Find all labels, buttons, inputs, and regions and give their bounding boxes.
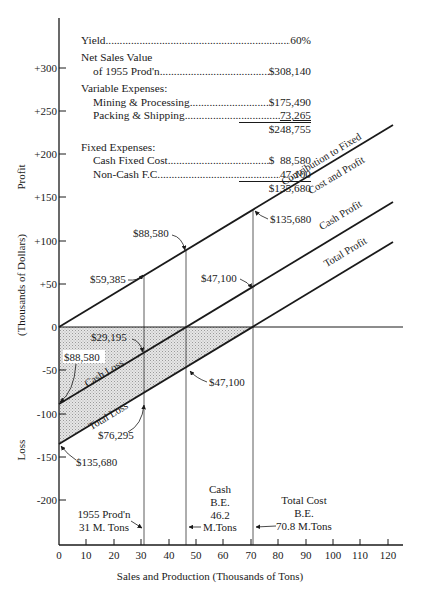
svg-text:$135,680: $135,680 bbox=[76, 456, 118, 468]
svg-text:50: 50 bbox=[191, 549, 203, 561]
svg-text:-100: -100 bbox=[37, 408, 58, 420]
fixed-expenses-heading: Fixed Expenses: bbox=[81, 141, 311, 154]
svg-text:20: 20 bbox=[109, 549, 121, 561]
svg-text:-200: -200 bbox=[37, 494, 58, 506]
yield-row: Yield 60% bbox=[81, 34, 311, 47]
svg-text:30: 30 bbox=[136, 549, 148, 561]
summary-table: Yield 60% Net Sales Value of 1955 Prod'n… bbox=[81, 34, 311, 195]
svg-text:0: 0 bbox=[52, 321, 58, 333]
svg-text:110: 110 bbox=[352, 549, 369, 561]
svg-text:$88,580: $88,580 bbox=[64, 351, 100, 363]
svg-text:+300: +300 bbox=[34, 62, 57, 74]
svg-text:1955 Prod'n: 1955 Prod'n bbox=[77, 508, 131, 520]
svg-text:-50: -50 bbox=[42, 364, 57, 376]
packing-row: Packing & Shipping 73,265 bbox=[81, 109, 311, 122]
variable-expenses-total: $248,755 bbox=[81, 123, 311, 136]
svg-text:31 M. Tons: 31 M. Tons bbox=[79, 521, 129, 533]
svg-text:$59,385: $59,385 bbox=[90, 273, 126, 285]
svg-text:-150: -150 bbox=[37, 451, 58, 463]
svg-text:$47,100: $47,100 bbox=[201, 272, 237, 284]
y-axis-title: (Thousands of Dollars) bbox=[15, 234, 28, 336]
y-axis-loss-label: Loss bbox=[15, 440, 27, 461]
svg-text:+250: +250 bbox=[34, 105, 57, 117]
fixed-expenses-total: $135,680 bbox=[81, 182, 311, 195]
svg-text:Cash Profit: Cash Profit bbox=[317, 198, 363, 232]
svg-text:10: 10 bbox=[81, 549, 93, 561]
svg-text:B.E.: B.E. bbox=[294, 507, 314, 519]
svg-text:46.2: 46.2 bbox=[210, 509, 229, 521]
svg-text:B.E.: B.E. bbox=[210, 496, 230, 508]
svg-text:0: 0 bbox=[56, 549, 62, 561]
svg-text:+200: +200 bbox=[34, 148, 57, 160]
cash-fixed-row: Cash Fixed Cost $ 88,580 bbox=[81, 154, 311, 167]
net-sales-row: of 1955 Prod'n $308,140 bbox=[81, 65, 311, 78]
svg-text:+50: +50 bbox=[40, 278, 58, 290]
svg-text:+100: +100 bbox=[34, 235, 57, 247]
svg-text:$76,295: $76,295 bbox=[98, 429, 134, 441]
y-axis-profit-label: Profit bbox=[15, 164, 27, 189]
svg-text:70: 70 bbox=[246, 549, 258, 561]
svg-text:Total Cost: Total Cost bbox=[281, 494, 326, 506]
svg-text:120: 120 bbox=[380, 549, 397, 561]
x-ticks bbox=[86, 539, 388, 545]
x-tick-labels: 0 10 20 30 40 50 60 70 80 90 100 110 120 bbox=[56, 549, 397, 561]
svg-text:40: 40 bbox=[164, 549, 176, 561]
svg-text:$135,680: $135,680 bbox=[270, 213, 312, 225]
svg-text:M.Tons: M.Tons bbox=[203, 521, 237, 533]
variable-expenses-heading: Variable Expenses: bbox=[81, 82, 311, 95]
svg-text:100: 100 bbox=[325, 549, 342, 561]
svg-text:90: 90 bbox=[301, 549, 313, 561]
svg-text:$47,100: $47,100 bbox=[209, 376, 245, 388]
x-axis-title: Sales and Production (Thousands of Tons) bbox=[117, 570, 304, 583]
mining-row: Mining & Processing $175,490 bbox=[81, 96, 311, 109]
svg-text:70.8 M.Tons: 70.8 M.Tons bbox=[276, 520, 332, 532]
net-sales-heading: Net Sales Value bbox=[81, 51, 311, 64]
svg-text:60: 60 bbox=[218, 549, 230, 561]
svg-text:Cash: Cash bbox=[209, 483, 232, 495]
marker-labels: 1955 Prod'n 31 M. Tons Cash B.E. 46.2 M.… bbox=[77, 483, 331, 533]
svg-text:$88,580: $88,580 bbox=[133, 227, 169, 239]
y-tick-labels: +300 +250 +200 +150 +100 +50 0 -50 -100 … bbox=[34, 62, 57, 506]
svg-text:+150: +150 bbox=[34, 191, 57, 203]
svg-text:80: 80 bbox=[273, 549, 285, 561]
svg-text:$29,195: $29,195 bbox=[91, 331, 127, 343]
non-cash-fixed-row: Non-Cash F.C. 47,100 bbox=[81, 168, 311, 181]
